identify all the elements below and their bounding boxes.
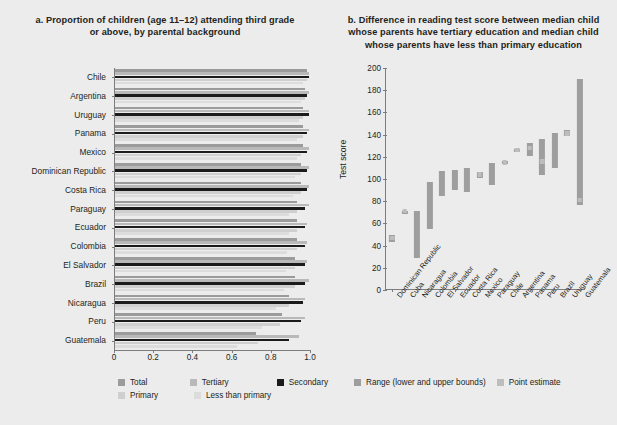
chart-a-bar-group — [115, 106, 310, 125]
chart-a-category-label: Chile — [0, 68, 110, 87]
chart-b-x-tick — [580, 289, 581, 292]
chart-a-category-label: El Salvador — [0, 256, 110, 275]
chart-a-bar-less-than-primary — [115, 307, 276, 310]
chart-b-y-tick-label: 80 — [372, 197, 381, 206]
chart-a-bar-tertiary — [115, 241, 307, 244]
chart-a-bar-primary — [115, 79, 307, 82]
chart-b-legend: Range (lower and upper bounds) Point est… — [354, 378, 614, 387]
panel-a-title-line1: a. Proportion of children (age 11–12) at… — [14, 14, 316, 26]
chart-a-x-axis — [114, 350, 310, 351]
chart-a-bar-less-than-primary — [115, 101, 301, 104]
chart-b-y-tick — [383, 201, 387, 202]
chart-b-y-tick-label: 200 — [367, 64, 381, 73]
chart-b-point-estimate — [577, 198, 582, 203]
chart-a-bar-group — [115, 68, 310, 87]
chart-a-bar-primary — [115, 248, 297, 251]
chart-b-point-estimate — [527, 146, 532, 151]
chart-b-range-bar — [414, 211, 420, 258]
chart-b-y-tick-label: 20 — [372, 263, 381, 272]
chart-b-range-bar — [464, 168, 470, 192]
chart-a-category-label: Nicaragua — [0, 294, 110, 313]
legend-label-secondary: Secondary — [289, 378, 328, 387]
chart-b-y-tick — [383, 90, 387, 91]
chart-b-y-tick-label: 0 — [376, 286, 381, 295]
chart-a-bar-less-than-primary — [115, 195, 293, 198]
chart-a-bar-tertiary — [115, 166, 309, 169]
chart-b-point-estimate — [477, 172, 482, 177]
chart-b-x-tick — [517, 289, 518, 292]
chart-a-legend: Total Tertiary Secondary Primary — [118, 378, 328, 404]
chart-a-bar-less-than-primary — [115, 213, 289, 216]
chart-b-x-tick — [555, 289, 556, 292]
legend-label-tertiary: Tertiary — [202, 378, 229, 387]
chart-a-bar-group — [115, 218, 310, 237]
legend-item-total: Total — [118, 378, 190, 387]
chart-b-y-tick — [383, 112, 387, 113]
chart-a-category-label: Guatemala — [0, 331, 110, 350]
chart-a-bar-less-than-primary — [115, 326, 262, 329]
chart-a-bar-group — [115, 143, 310, 162]
chart-a-plot-area — [114, 68, 310, 350]
chart-a-bar-tertiary — [115, 223, 307, 226]
legend-item-secondary: Secondary — [277, 378, 328, 387]
panel-b-title-line1: b. Difference in reading test score betw… — [340, 14, 607, 26]
chart-b-y-tick — [383, 157, 387, 158]
chart-a-bar-primary — [115, 135, 303, 138]
chart-a-bar-tertiary — [115, 91, 309, 94]
panel-b-title-line3: whose parents have less than primary edu… — [340, 39, 607, 51]
chart-a-x-tick-label: 0 — [112, 353, 117, 362]
chart-b-x-tick — [405, 289, 406, 292]
chart-a-bar-primary — [115, 285, 295, 288]
legend-item-range: Range (lower and upper bounds) — [354, 378, 486, 387]
chart-a-bar-primary — [115, 154, 301, 157]
legend-swatch-secondary — [277, 379, 284, 386]
chart-a-x-tick-label: 0.8 — [265, 353, 276, 362]
chart-a-bar-total — [115, 125, 303, 128]
legend-label-point-estimate: Point estimate — [509, 378, 561, 387]
chart-a-category-label: Panama — [0, 124, 110, 143]
chart-a-bar-group — [115, 331, 310, 350]
chart-b-x-tick — [417, 289, 418, 292]
chart-a-bar-total — [115, 201, 297, 204]
chart-a-bar-less-than-primary — [115, 345, 237, 348]
chart-a-bar-less-than-primary — [115, 176, 295, 179]
chart-a-category-label: Costa Rica — [0, 181, 110, 200]
chart-a-category-label: Paraguay — [0, 200, 110, 219]
chart-a-category-label: Argentina — [0, 87, 110, 106]
chart-a-bar-group — [115, 256, 310, 275]
panel-b-title: b. Difference in reading test score betw… — [330, 14, 617, 51]
chart-b-y-tick-label: 60 — [372, 219, 381, 228]
chart-a-category-label: Colombia — [0, 237, 110, 256]
chart-b-x-tick — [480, 289, 481, 292]
chart-a-bar-tertiary — [115, 298, 305, 301]
chart-b-range-bar — [452, 170, 458, 190]
chart-a-bar-primary — [115, 210, 297, 213]
chart-b-point-estimate — [402, 209, 407, 214]
chart-b-y-tick — [383, 246, 387, 247]
chart-b-y-tick — [383, 179, 387, 180]
chart-a-bar-group — [115, 87, 310, 106]
chart-a-bar-group — [115, 294, 310, 313]
chart-b-range-bar — [427, 182, 433, 229]
chart-a-category-label: Uruguay — [0, 106, 110, 125]
legend-label-total: Total — [130, 378, 147, 387]
chart-b-x-tick — [492, 289, 493, 292]
chart-a-bar-tertiary — [115, 185, 309, 188]
chart-a-category-label: Brazil — [0, 275, 110, 294]
chart-b-y-tick-label: 40 — [372, 241, 381, 250]
chart-a-bar-tertiary — [115, 279, 309, 282]
chart-a-bar-primary — [115, 97, 305, 100]
panel-a: a. Proportion of children (age 11–12) at… — [0, 0, 330, 425]
panel-a-title-line2: or above, by parental background — [14, 26, 316, 38]
chart-b-range-bar — [439, 171, 445, 195]
chart-b-y-tick-label: 160 — [367, 108, 381, 117]
figure-container: a. Proportion of children (age 11–12) at… — [0, 0, 617, 425]
chart-b-y-tick-label: 100 — [367, 175, 381, 184]
chart-b-x-tick — [542, 289, 543, 292]
chart-b-x-tick — [442, 289, 443, 292]
chart-a-bar-tertiary — [115, 335, 299, 338]
legend-item-primary: Primary — [118, 391, 194, 400]
chart-a-bar-less-than-primary — [115, 270, 286, 273]
chart-b-y-tick — [383, 268, 387, 269]
legend-item-point-estimate: Point estimate — [497, 378, 561, 387]
